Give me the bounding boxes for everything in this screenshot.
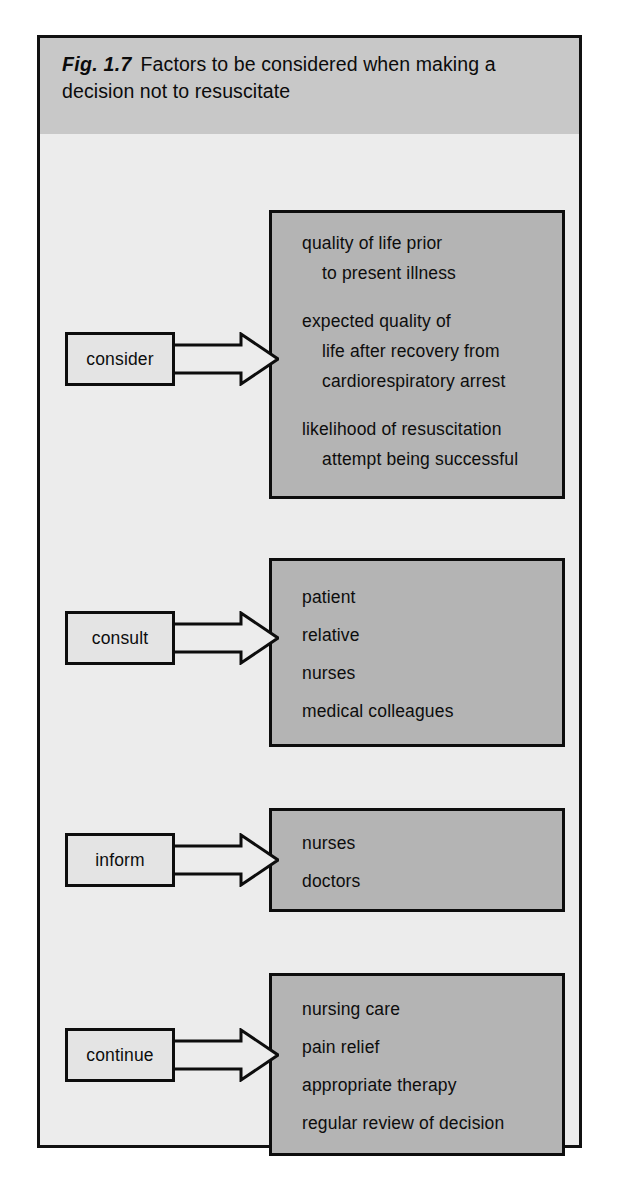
content-list: nursesdoctors [272, 811, 562, 911]
content-item: appropriate therapy [302, 1077, 562, 1115]
arrow-consult [169, 611, 279, 665]
content-item: pain relief [302, 1039, 562, 1077]
label-arrow-group-continue: continue [65, 1028, 277, 1082]
content-item: life after recovery from [302, 343, 562, 373]
action-label-text: consult [92, 628, 149, 649]
figure-number-label: Fig. 1.7 [62, 53, 132, 75]
content-item: attempt being successful [302, 451, 562, 481]
action-label-text: consider [86, 349, 153, 370]
content-box-inform: nursesdoctors [269, 808, 565, 912]
content-item: likelihood of resuscitation [302, 421, 562, 451]
content-item: patient [302, 589, 562, 627]
arrow-inform [169, 833, 279, 887]
action-label-consult[interactable]: consult [65, 611, 175, 665]
label-arrow-group-inform: inform [65, 833, 277, 887]
content-item: relative [302, 627, 562, 665]
label-arrow-group-consult: consult [65, 611, 277, 665]
action-label-inform[interactable]: inform [65, 833, 175, 887]
action-label-continue[interactable]: continue [65, 1028, 175, 1082]
content-item: nurses [302, 665, 562, 703]
content-item: doctors [302, 873, 562, 911]
content-item: nurses [302, 835, 562, 873]
arrow-outline [169, 835, 278, 885]
figure-caption: Fig. 1.7Factors to be considered when ma… [62, 51, 557, 105]
content-item: medical colleagues [302, 703, 562, 741]
action-label-text: inform [95, 850, 145, 871]
arrow-outline [169, 613, 278, 663]
content-item: nursing care [302, 1001, 562, 1039]
content-item: quality of life prior [302, 235, 562, 265]
content-box-consider: quality of life priorto present illnesse… [269, 210, 565, 499]
content-item: expected quality of [302, 313, 562, 343]
label-arrow-group-consider: consider [65, 332, 277, 386]
content-item: to present illness [302, 265, 562, 295]
content-list: patientrelativenursesmedical colleagues [272, 561, 562, 741]
content-box-consult: patientrelativenursesmedical colleagues [269, 558, 565, 747]
figure-frame: Fig. 1.7Factors to be considered when ma… [37, 35, 582, 1148]
content-list: quality of life priorto present illnesse… [272, 213, 562, 481]
diagram-panel: quality of life priorto present illnesse… [40, 134, 579, 1145]
figure-caption-band: Fig. 1.7Factors to be considered when ma… [40, 38, 579, 134]
content-box-continue: nursing carepain reliefappropriate thera… [269, 973, 565, 1156]
action-label-text: continue [86, 1045, 153, 1066]
content-item: regular review of decision [302, 1115, 562, 1153]
content-item: cardiorespiratory arrest [302, 373, 562, 403]
arrow-outline [169, 1030, 278, 1080]
action-label-consider[interactable]: consider [65, 332, 175, 386]
content-list: nursing carepain reliefappropriate thera… [272, 976, 562, 1153]
arrow-consider [169, 332, 279, 386]
arrow-continue [169, 1028, 279, 1082]
arrow-outline [169, 334, 278, 384]
